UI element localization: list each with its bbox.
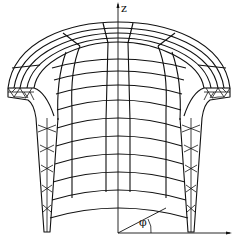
flange-triangle-mesh-right	[202, 88, 230, 118]
shell-wall-left	[34, 88, 58, 232]
cylinder-hoop-lines	[50, 59, 188, 218]
angle-indicator	[118, 208, 232, 235]
flange-top	[8, 22, 230, 88]
shell-wall-right	[180, 88, 204, 232]
cylinder-meridian-lines	[58, 43, 181, 198]
fe-mesh-diagram: z	[0, 0, 239, 240]
z-axis-label: z	[121, 2, 127, 15]
flange-triangle-mesh-left	[8, 88, 36, 118]
phi-angle-label: φ	[139, 216, 147, 229]
